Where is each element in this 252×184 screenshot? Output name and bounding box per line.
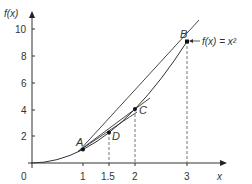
axes bbox=[28, 16, 222, 168]
curve-label: f(x) = x² bbox=[202, 36, 237, 47]
point-B bbox=[185, 40, 189, 44]
point-A bbox=[81, 148, 85, 152]
label-D: D bbox=[112, 130, 120, 142]
x-axis-label: x bbox=[216, 171, 223, 182]
label-B: B bbox=[180, 28, 187, 40]
y-tick-4: 4 bbox=[21, 105, 27, 116]
label-C: C bbox=[139, 104, 147, 116]
x-axis-arrow-icon bbox=[220, 160, 227, 166]
y-tick-10: 10 bbox=[15, 24, 27, 35]
y-tick-8: 8 bbox=[21, 51, 27, 62]
y-axis-label: f(x) bbox=[4, 8, 18, 19]
origin-label: 0 bbox=[21, 171, 27, 182]
leader-arrow-icon bbox=[189, 39, 193, 43]
y-tick-6: 6 bbox=[21, 78, 27, 89]
point-D bbox=[107, 131, 111, 135]
y-tick-2: 2 bbox=[21, 131, 27, 142]
chart: f(x) x 0 1 1.5 2 3 2 4 6 8 10 A D C B f(… bbox=[0, 0, 252, 184]
x-tick-1: 1 bbox=[80, 171, 86, 182]
point-C bbox=[133, 107, 137, 111]
x-tick-1-5: 1.5 bbox=[101, 171, 115, 182]
x-tick-2: 2 bbox=[132, 171, 138, 182]
label-A: A bbox=[75, 136, 83, 148]
x-tick-3: 3 bbox=[184, 171, 190, 182]
y-axis-arrow-icon bbox=[29, 11, 35, 18]
